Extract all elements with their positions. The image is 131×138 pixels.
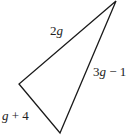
side-label-right: 3g − 1	[93, 64, 126, 79]
triangle-diagram: 2g 3g − 1 g + 4	[0, 0, 131, 138]
side-label-bottom-left: g + 4	[2, 108, 29, 123]
triangle-svg: 2g 3g − 1 g + 4	[0, 0, 131, 138]
side-label-top-left: 2g	[50, 23, 64, 38]
